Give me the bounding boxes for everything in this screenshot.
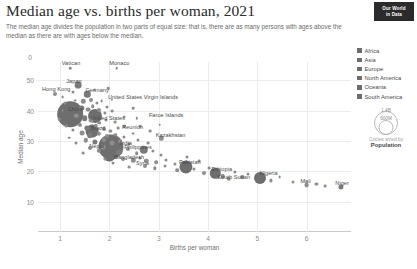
data-point-c85[interactable]	[158, 123, 161, 126]
data-point-c80[interactable]	[128, 166, 131, 169]
legend-item-north-america[interactable]: North America	[357, 74, 415, 83]
x-axis-label: Births per woman	[170, 244, 220, 251]
data-point-c37[interactable]	[102, 138, 106, 142]
logo-line-2: in Data	[386, 12, 402, 18]
legend-item-label: Oceania	[365, 84, 387, 90]
data-point-c15[interactable]	[82, 116, 88, 122]
legend-item-oceania[interactable]: Oceania	[357, 83, 415, 92]
x-axis-tick-label: 3	[157, 235, 161, 242]
data-point-c03[interactable]	[81, 99, 85, 103]
legend-item-label: North America	[365, 75, 402, 81]
data-point-c26[interactable]	[117, 127, 120, 130]
data-point-c13[interactable]	[111, 110, 114, 113]
data-point-c68[interactable]	[278, 176, 281, 179]
data-point-vatican[interactable]	[69, 67, 72, 70]
data-point-c74[interactable]	[65, 124, 68, 127]
legend-swatch-icon	[357, 85, 362, 90]
data-point-c27[interactable]	[71, 128, 74, 131]
data-point-c25[interactable]	[109, 129, 112, 132]
data-point-c72[interactable]	[61, 109, 64, 112]
data-point-c48[interactable]	[151, 150, 154, 153]
data-point-c77[interactable]	[81, 152, 84, 155]
x-gridline	[159, 62, 160, 232]
data-point-c55[interactable]	[173, 162, 176, 165]
data-point-c54[interactable]	[165, 158, 168, 161]
data-point-c49[interactable]	[160, 153, 163, 156]
legend-item-south-america[interactable]: South America	[357, 92, 415, 101]
legend-item-label: Africa	[365, 48, 380, 54]
legend-item-asia[interactable]: Asia	[357, 55, 415, 64]
chart-root: Median age vs. births per woman, 2021 Th…	[0, 0, 417, 269]
y-gridline	[38, 80, 351, 81]
data-point-c60[interactable]	[193, 167, 196, 170]
legend-swatch-icon	[357, 48, 362, 53]
data-point-label: Ethiopia	[212, 166, 233, 172]
data-point-c41[interactable]	[137, 139, 140, 142]
data-point-monaco[interactable]	[116, 67, 119, 70]
size-legend-bubbles: 1.4B 600M	[357, 108, 415, 136]
y-gridline	[38, 171, 351, 172]
data-point-c59[interactable]	[176, 168, 180, 172]
data-point-label: Nigeria	[260, 170, 278, 176]
data-point-c06[interactable]	[100, 100, 103, 103]
y-axis-tick-label: 10	[27, 198, 34, 205]
data-point-c75[interactable]	[68, 137, 71, 140]
data-point-c04[interactable]	[89, 98, 93, 102]
data-point-label: United States	[91, 115, 125, 121]
data-point-label: Germany	[85, 87, 108, 93]
data-point-label: Syria	[136, 160, 149, 166]
data-point-c28[interactable]	[79, 131, 84, 136]
data-point-c86[interactable]	[132, 107, 135, 110]
data-point-c67[interactable]	[270, 179, 273, 182]
data-point-c90[interactable]	[61, 96, 64, 99]
legend-swatch-icon	[357, 76, 362, 81]
data-point-c64[interactable]	[234, 170, 237, 173]
data-point-c21[interactable]	[78, 123, 82, 127]
data-point-c07[interactable]	[106, 105, 109, 108]
data-point-c84[interactable]	[148, 130, 151, 133]
data-point-label: Vatican	[62, 60, 81, 66]
data-point-label: Nepal	[89, 143, 104, 149]
legend-item-africa[interactable]: Africa	[357, 46, 415, 55]
data-point-c73[interactable]	[58, 118, 61, 121]
y-axis-tick-label: 30	[27, 137, 34, 144]
y-axis-tick-label: 20	[27, 168, 34, 175]
data-point-c33[interactable]	[123, 136, 126, 139]
data-point-c02[interactable]	[74, 99, 77, 102]
legend-item-europe[interactable]: Europe	[357, 64, 415, 73]
chart-header: Median age vs. births per woman, 2021 Th…	[6, 2, 366, 40]
data-point-c31[interactable]	[105, 134, 109, 138]
data-point-c57[interactable]	[153, 167, 156, 170]
data-point-c76[interactable]	[75, 141, 78, 144]
data-point-c71[interactable]	[324, 185, 327, 188]
data-point-c12[interactable]	[103, 111, 106, 114]
size-label-large: 1.4B	[381, 108, 390, 113]
data-point-c30[interactable]	[96, 131, 100, 135]
data-point-c38[interactable]	[110, 141, 115, 146]
data-point-c53[interactable]	[155, 160, 159, 164]
data-point-c70[interactable]	[315, 182, 318, 185]
data-point-c69[interactable]	[291, 181, 294, 184]
data-point-hong-kong[interactable]	[53, 92, 57, 96]
our-world-in-data-logo[interactable]: Our World in Data	[374, 2, 414, 21]
data-point-c62[interactable]	[208, 167, 211, 170]
data-point-c89[interactable]	[71, 90, 74, 93]
data-point-c09[interactable]	[86, 107, 91, 112]
data-point-c58[interactable]	[163, 165, 166, 168]
data-point-faroe-islands[interactable]	[135, 117, 137, 119]
x-axis-tick-label: 0	[28, 54, 32, 61]
data-point-c34[interactable]	[132, 132, 135, 135]
data-point-c05[interactable]	[95, 102, 98, 105]
data-point-c61[interactable]	[202, 171, 206, 175]
data-point-label: Monaco	[109, 60, 129, 66]
data-point-c10[interactable]	[91, 104, 95, 108]
data-point-c29[interactable]	[87, 133, 93, 139]
x-axis-tick-label: 2	[108, 235, 112, 242]
data-point-c79[interactable]	[112, 162, 115, 165]
data-point-c19[interactable]	[114, 121, 117, 124]
data-point-c11[interactable]	[97, 108, 101, 112]
data-point-label: Niger	[335, 180, 349, 186]
legend-item-label: Europe	[365, 66, 384, 72]
page-title: Median age vs. births per woman, 2021	[6, 2, 366, 19]
data-point-label: Pakistan	[179, 159, 201, 165]
